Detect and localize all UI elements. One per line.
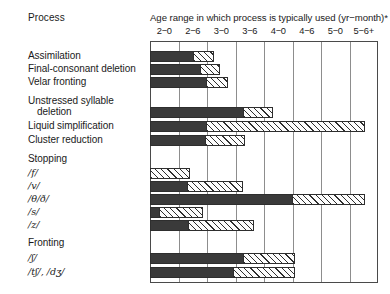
row-label: /θ/ð/ bbox=[28, 193, 49, 204]
gridline bbox=[321, 42, 322, 282]
chart-plot-area bbox=[150, 41, 378, 283]
row-label: Liquid simplification bbox=[28, 120, 114, 131]
row-label: Stopping bbox=[28, 153, 67, 164]
x-tick-label: 3−0 bbox=[214, 26, 229, 36]
row-label: /z/ bbox=[28, 219, 39, 230]
process-column-header: Process bbox=[28, 12, 65, 23]
row-label: Fronting bbox=[28, 237, 64, 248]
x-tick-label: 2−6 bbox=[185, 26, 200, 36]
gridline bbox=[236, 42, 237, 282]
row-label: Velar fronting bbox=[28, 76, 86, 87]
row-label: /tʃ/, /dʒ/ bbox=[28, 266, 65, 277]
x-tick-label: 4−0 bbox=[271, 26, 286, 36]
x-tick-label: 2−0 bbox=[157, 26, 172, 36]
gridline bbox=[350, 42, 351, 282]
process-row-labels: AssimilationFinal-consonant deletionVela… bbox=[0, 41, 150, 283]
chart-axis-title: Age range in which process is typically … bbox=[150, 12, 388, 23]
row-label: Final-consonant deletion bbox=[28, 63, 136, 74]
gridline bbox=[179, 42, 180, 282]
row-label: Unstressed syllable bbox=[28, 95, 114, 106]
row-label: deletion bbox=[37, 106, 72, 117]
x-tick-label: 5−6+ bbox=[354, 26, 374, 36]
gridline bbox=[207, 42, 208, 282]
x-axis-tick-labels: 2−02−63−03−64−04−65−05−6+ bbox=[150, 26, 378, 39]
row-label: /s/ bbox=[28, 206, 39, 217]
x-tick-label: 4−6 bbox=[299, 26, 314, 36]
row-label: Cluster reduction bbox=[28, 134, 103, 145]
row-label: Assimilation bbox=[28, 50, 81, 61]
row-label: /ʃ/ bbox=[28, 252, 37, 263]
x-tick-label: 5−0 bbox=[328, 26, 343, 36]
gridline bbox=[264, 42, 265, 282]
row-label: /v/ bbox=[28, 180, 40, 191]
row-label: /f/ bbox=[28, 167, 38, 178]
x-tick-label: 3−6 bbox=[242, 26, 257, 36]
gridline bbox=[293, 42, 294, 282]
